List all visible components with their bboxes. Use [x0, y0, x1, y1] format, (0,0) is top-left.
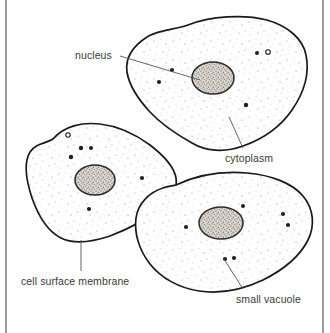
- cell-bottom-right-nucleus: [199, 207, 243, 239]
- cell-top: [127, 17, 307, 151]
- cell-left-nucleus: [75, 165, 115, 195]
- cell-bottom-right: [136, 173, 313, 292]
- label-nucleus: nucleus: [75, 49, 112, 61]
- label-cell-surface-membrane: cell surface membrane: [21, 275, 129, 287]
- cell-top-nucleus: [192, 62, 234, 94]
- label-small-vacuole: small vacuole: [236, 293, 301, 305]
- label-cytoplasm: cytoplasm: [225, 152, 273, 164]
- figure-canvas: nucleus cytoplasm cell surface membrane …: [0, 0, 330, 333]
